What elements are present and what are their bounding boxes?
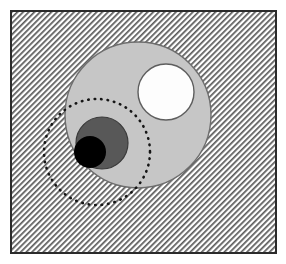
black-circle bbox=[74, 136, 106, 168]
white-circle bbox=[138, 64, 194, 120]
circles-diagram: Nested circles set diagram on hatched sq… bbox=[0, 0, 286, 264]
figure-container: Nested circles set diagram on hatched sq… bbox=[0, 0, 286, 264]
